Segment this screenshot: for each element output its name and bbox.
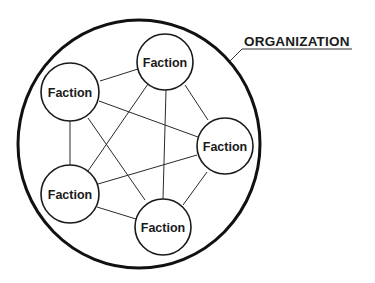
faction-node-top: Faction — [137, 34, 193, 90]
edge-topleft-top — [100, 69, 138, 81]
edge-bottomleft-bottom — [97, 207, 136, 219]
organization-diagram: ORGANIZATION Faction Faction Faction Fac… — [0, 0, 375, 283]
edge-right-bottomleft — [98, 155, 197, 184]
edge-right-bottom — [183, 172, 207, 205]
faction-node-bottom-left: Faction — [41, 165, 99, 223]
edge-topleft-right — [99, 101, 198, 137]
faction-label: Faction — [48, 188, 92, 202]
faction-node-right: Faction — [197, 118, 253, 174]
faction-label: Faction — [203, 140, 247, 154]
faction-label: Faction — [143, 56, 187, 70]
edge-top-bottom — [163, 90, 166, 199]
organization-label: ORGANIZATION — [244, 34, 350, 49]
faction-node-top-left: Faction — [41, 63, 99, 121]
organization-callout: ORGANIZATION — [230, 34, 352, 61]
callout-leader-line — [230, 49, 352, 61]
edge-top-right — [185, 85, 208, 120]
faction-node-bottom: Faction — [135, 199, 191, 255]
faction-label: Faction — [141, 221, 185, 235]
faction-label: Faction — [48, 86, 92, 100]
